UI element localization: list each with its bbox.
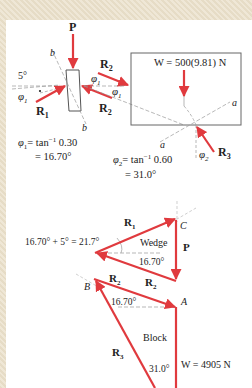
block-label: Block [143,332,167,343]
label-b-top: b [50,47,55,58]
wedge [66,70,81,111]
label-r3: R3 [218,145,231,161]
poly-label-r1: R1 [124,216,136,231]
weight-label-text: W = 500(9.81) N [154,57,227,69]
wedge-label: Wedge [140,237,168,248]
angle-block-label: 16.70° [111,297,136,307]
point-c: C [180,220,187,231]
label-r1: R1 [36,104,49,120]
force-r2-wedge-arrow [82,86,112,98]
weight-polygon-label: W = 4905 N [181,359,231,370]
wedge-block-diagram: P R1 R2 R2 b b 5° φ1 φ1 φ1 φ1= tan−1 0.3… [0,0,252,388]
angle-sum-label: 16.70° + 5° = 21.7° [25,237,100,247]
a-a-line [160,102,230,142]
force-r1-arrow [36,86,65,102]
point-b: B [84,281,90,292]
label-phi1-left: φ1 [18,90,28,105]
angle-31-label: 31.0° [149,364,170,374]
label-r2-upper: R2 [100,57,113,73]
phi2-equation-line2: = 31.0° [125,169,156,180]
poly-label-r3: R3 [112,346,124,361]
phi1-equation-line2: = 16.70° [35,151,71,162]
poly-label-p: P [183,241,190,253]
angle-wedge-label: 16.70° [139,257,164,267]
label-p: P [69,20,76,34]
force-r2-block-arrow [98,73,128,85]
poly-label-r2-lower: R2 [145,276,157,291]
b-b-line [52,50,86,124]
label-a-left: a [160,139,165,150]
label-phi2: φ2 [199,148,209,163]
point-a: A [180,296,188,307]
phi1-equation-line1: φ1= tan−1 0.30 [18,136,77,151]
label-r2-lower: R2 [99,101,112,117]
label-b-bottom: b [82,122,87,133]
phi2-equation-line1: φ2= tan−1 0.60 [113,153,172,168]
label-a-right: a [232,97,237,108]
label-5deg: 5° [18,70,27,81]
